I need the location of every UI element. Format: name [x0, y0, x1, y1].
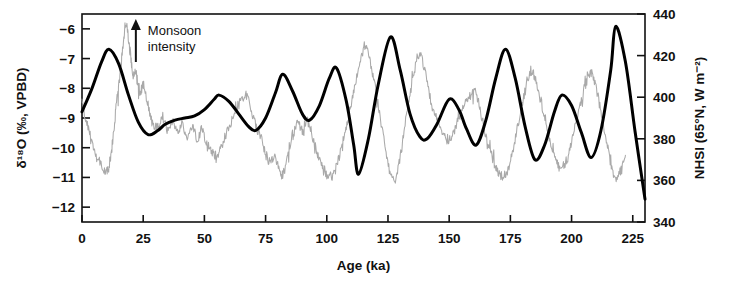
annotation-group: Monsoon intensity — [131, 19, 201, 62]
chart-figure: 0255075100125150175200225 −12−11−10−9−8−… — [0, 0, 730, 287]
right-tick-label: 440 — [653, 7, 676, 22]
monsoon-intensity-label-line2: intensity — [148, 39, 196, 54]
x-tick-label: 25 — [136, 231, 152, 246]
right-tick-label: 360 — [653, 173, 676, 188]
x-tick-label: 200 — [560, 231, 583, 246]
right-axis-tick-labels: 340360380400420440 — [653, 7, 676, 230]
right-axis-title: NHSI (65°N, W m⁻²) — [692, 57, 707, 180]
chart-svg: 0255075100125150175200225 −12−11−10−9−8−… — [0, 0, 730, 287]
x-tick-label: 75 — [258, 231, 274, 246]
left-tick-label: −6 — [60, 22, 76, 37]
x-axis-ticks — [82, 215, 633, 222]
right-tick-label: 380 — [653, 132, 676, 147]
left-axis-title: δ¹⁸O (‰, VPBD) — [14, 68, 29, 169]
right-tick-label: 420 — [653, 49, 676, 64]
x-tick-label: 150 — [438, 231, 461, 246]
monsoon-intensity-label-line1: Monsoon — [148, 23, 201, 38]
x-axis-tick-labels: 0255075100125150175200225 — [78, 231, 644, 246]
left-axis-ticks — [82, 29, 90, 207]
x-tick-label: 175 — [499, 231, 522, 246]
x-tick-label: 0 — [78, 231, 86, 246]
left-tick-label: −12 — [52, 200, 75, 215]
x-axis-title: Age (ka) — [337, 258, 390, 273]
x-tick-label: 50 — [197, 231, 212, 246]
x-tick-label: 125 — [377, 231, 400, 246]
x-tick-label: 225 — [621, 231, 644, 246]
right-tick-label: 400 — [653, 90, 676, 105]
right-tick-label: 340 — [653, 215, 676, 230]
left-tick-label: −9 — [60, 111, 75, 126]
x-tick-label: 100 — [316, 231, 339, 246]
left-tick-label: −8 — [60, 81, 76, 96]
left-tick-label: −7 — [60, 52, 75, 67]
left-tick-label: −11 — [53, 170, 76, 185]
left-axis-tick-labels: −12−11−10−9−8−7−6 — [52, 22, 75, 215]
monsoon-arrowhead-icon — [131, 19, 141, 30]
left-tick-label: −10 — [52, 141, 75, 156]
